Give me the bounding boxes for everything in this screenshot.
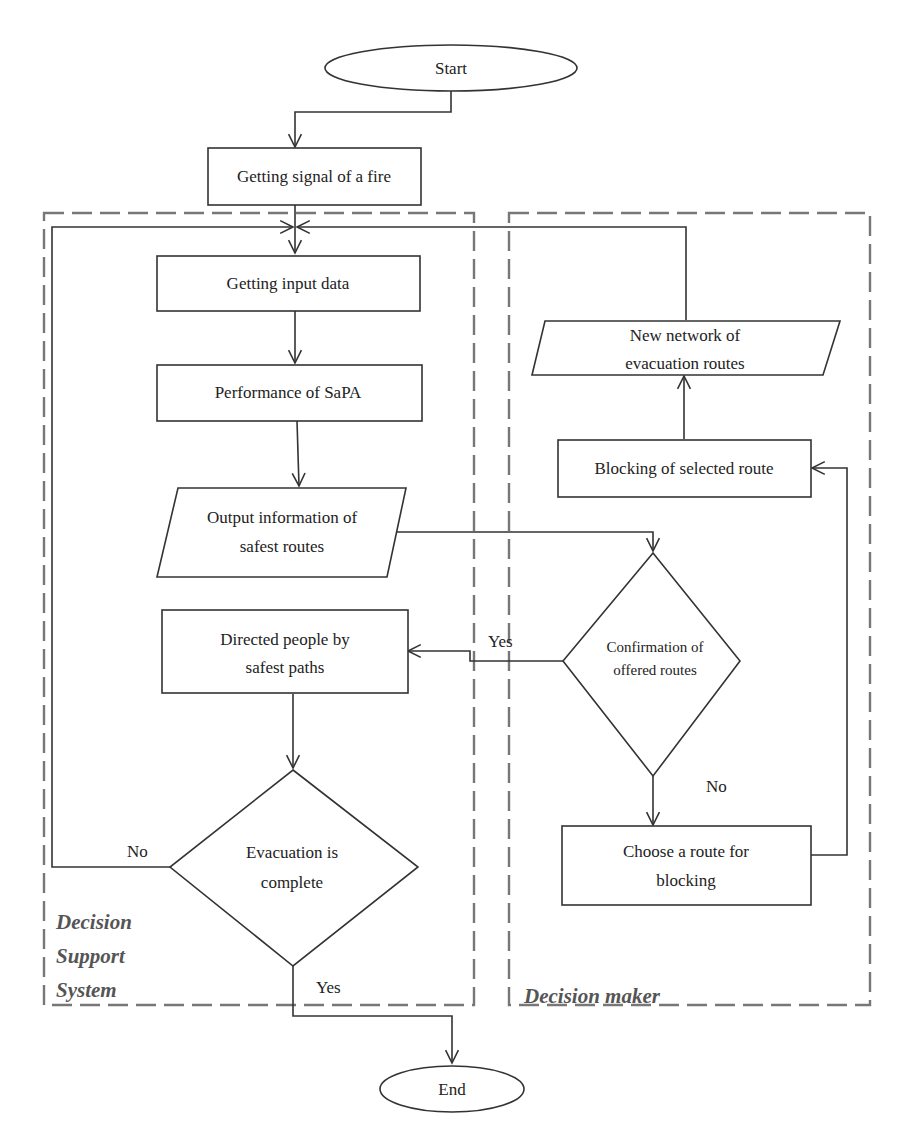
edge-choose-blocking — [811, 468, 847, 855]
edge-confirm-directed — [408, 651, 563, 661]
evac-yes-label: Yes — [316, 978, 341, 997]
sapa-label: Performance of SaPA — [215, 383, 362, 402]
network-label-line2: evacuation routes — [625, 354, 744, 373]
evac-label-line1: Evacuation is — [246, 843, 338, 862]
signal-label: Getting signal of a fire — [237, 167, 391, 186]
start-node: Start — [325, 45, 577, 91]
flowchart-canvas: Start Getting signal of a fire Getting i… — [0, 0, 910, 1147]
sapa-node: Performance of SaPA — [157, 365, 422, 421]
directed-label-line1: Directed people by — [220, 630, 350, 649]
blocking-node: Blocking of selected route — [558, 440, 811, 497]
confirm-no-label: No — [706, 777, 727, 796]
end-node: End — [380, 1066, 524, 1112]
directed-node: Directed people by safest paths — [162, 610, 408, 693]
dss-group-label-line1: Decision — [55, 910, 132, 934]
network-node: New network of evacuation routes — [532, 321, 840, 375]
output-node: Output information of safest routes — [157, 488, 406, 577]
confirm-label-line2: offered routes — [613, 662, 697, 678]
evac-decision: Evacuation is complete — [170, 770, 418, 966]
directed-label-line2: safest paths — [246, 658, 325, 677]
output-label-line1: Output information of — [207, 508, 357, 527]
edge-output-confirm — [396, 532, 653, 551]
end-label: End — [438, 1080, 466, 1099]
dss-group-label-line3: System — [56, 978, 117, 1002]
input-label: Getting input data — [227, 274, 350, 293]
evac-no-label: No — [127, 842, 148, 861]
blocking-label: Blocking of selected route — [595, 459, 774, 478]
signal-node: Getting signal of a fire — [208, 148, 421, 205]
network-label-line1: New network of — [630, 326, 741, 345]
confirm-yes-label: Yes — [488, 632, 513, 651]
choose-node: Choose a route for blocking — [562, 826, 811, 905]
confirm-label-line1: Confirmation of — [606, 639, 703, 655]
choose-label-line2: blocking — [656, 871, 716, 890]
edge-sapa-output — [297, 421, 299, 486]
edge-start-signal — [295, 91, 451, 147]
evac-label-line2: complete — [261, 873, 323, 892]
dm-group-label: Decision maker — [523, 984, 661, 1008]
confirm-decision: Confirmation of offered routes — [563, 553, 740, 776]
dss-group-label-line2: Support — [56, 944, 126, 968]
input-node: Getting input data — [157, 256, 420, 311]
output-label-line2: safest routes — [240, 537, 325, 556]
choose-label-line1: Choose a route for — [623, 842, 749, 861]
start-label: Start — [435, 59, 467, 78]
